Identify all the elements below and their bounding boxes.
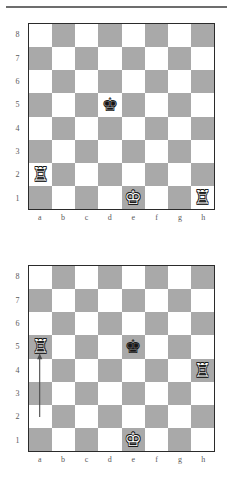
square-a5[interactable]: ♖ [29, 335, 52, 358]
square-g2[interactable] [168, 405, 191, 428]
square-f8[interactable] [145, 24, 168, 47]
square-c7[interactable] [75, 289, 98, 312]
square-d7[interactable] [98, 47, 121, 70]
square-d5[interactable] [98, 335, 121, 358]
square-c2[interactable] [75, 405, 98, 428]
square-a6[interactable] [29, 70, 52, 93]
square-f1[interactable] [145, 186, 168, 209]
square-h1[interactable]: ♖ [191, 186, 214, 209]
square-c4[interactable] [75, 117, 98, 140]
square-f6[interactable] [145, 312, 168, 335]
square-c8[interactable] [75, 266, 98, 289]
square-a2[interactable] [29, 405, 52, 428]
square-h2[interactable] [191, 163, 214, 186]
square-c7[interactable] [75, 47, 98, 70]
square-a1[interactable] [29, 186, 52, 209]
square-g1[interactable] [168, 428, 191, 451]
square-e7[interactable] [122, 47, 145, 70]
square-g1[interactable] [168, 186, 191, 209]
square-e6[interactable] [122, 70, 145, 93]
square-d8[interactable] [98, 24, 121, 47]
chessboard-before[interactable]: ♚♖♔♖ [28, 23, 215, 210]
white-king-e1[interactable]: ♔ [122, 186, 145, 209]
square-b6[interactable] [52, 312, 75, 335]
square-e5[interactable]: ♚ [122, 335, 145, 358]
square-e4[interactable] [122, 117, 145, 140]
square-a3[interactable] [29, 382, 52, 405]
square-f5[interactable] [145, 93, 168, 116]
square-g5[interactable] [168, 335, 191, 358]
square-g7[interactable] [168, 47, 191, 70]
square-b8[interactable] [52, 266, 75, 289]
square-b1[interactable] [52, 428, 75, 451]
square-d4[interactable] [98, 117, 121, 140]
square-c5[interactable] [75, 93, 98, 116]
square-d3[interactable] [98, 382, 121, 405]
square-e2[interactable] [122, 163, 145, 186]
black-king-e5[interactable]: ♚ [122, 335, 145, 358]
square-h5[interactable] [191, 335, 214, 358]
square-f4[interactable] [145, 359, 168, 382]
square-a4[interactable] [29, 117, 52, 140]
square-g2[interactable] [168, 163, 191, 186]
square-d8[interactable] [98, 266, 121, 289]
square-b2[interactable] [52, 405, 75, 428]
square-b1[interactable] [52, 186, 75, 209]
square-e6[interactable] [122, 312, 145, 335]
square-d1[interactable] [98, 428, 121, 451]
square-c1[interactable] [75, 428, 98, 451]
square-e5[interactable] [122, 93, 145, 116]
square-h1[interactable] [191, 428, 214, 451]
square-a2[interactable]: ♖ [29, 163, 52, 186]
white-rook-h4[interactable]: ♖ [191, 359, 214, 382]
square-h6[interactable] [191, 312, 214, 335]
square-h3[interactable] [191, 140, 214, 163]
square-a8[interactable] [29, 266, 52, 289]
square-g6[interactable] [168, 312, 191, 335]
square-e1[interactable]: ♔ [122, 428, 145, 451]
square-b6[interactable] [52, 70, 75, 93]
square-c6[interactable] [75, 312, 98, 335]
square-c3[interactable] [75, 140, 98, 163]
square-b3[interactable] [52, 382, 75, 405]
square-d2[interactable] [98, 163, 121, 186]
square-f2[interactable] [145, 163, 168, 186]
square-b5[interactable] [52, 93, 75, 116]
square-c4[interactable] [75, 359, 98, 382]
square-e3[interactable] [122, 382, 145, 405]
square-h4[interactable] [191, 117, 214, 140]
square-f6[interactable] [145, 70, 168, 93]
square-c2[interactable] [75, 163, 98, 186]
square-g3[interactable] [168, 140, 191, 163]
square-g8[interactable] [168, 24, 191, 47]
square-e3[interactable] [122, 140, 145, 163]
square-h7[interactable] [191, 47, 214, 70]
square-d1[interactable] [98, 186, 121, 209]
square-g4[interactable] [168, 359, 191, 382]
square-f2[interactable] [145, 405, 168, 428]
square-e1[interactable]: ♔ [122, 186, 145, 209]
square-d4[interactable] [98, 359, 121, 382]
square-c6[interactable] [75, 70, 98, 93]
square-a4[interactable] [29, 359, 52, 382]
square-f7[interactable] [145, 289, 168, 312]
square-h6[interactable] [191, 70, 214, 93]
white-rook-h1[interactable]: ♖ [191, 186, 214, 209]
square-c3[interactable] [75, 382, 98, 405]
square-g6[interactable] [168, 70, 191, 93]
square-e2[interactable] [122, 405, 145, 428]
square-f3[interactable] [145, 140, 168, 163]
square-g3[interactable] [168, 382, 191, 405]
square-b8[interactable] [52, 24, 75, 47]
square-b7[interactable] [52, 47, 75, 70]
square-h8[interactable] [191, 24, 214, 47]
square-b3[interactable] [52, 140, 75, 163]
square-a8[interactable] [29, 24, 52, 47]
chessboard-after[interactable]: ♖♚♖♔ [28, 265, 215, 452]
square-f5[interactable] [145, 335, 168, 358]
black-king-d5[interactable]: ♚ [98, 93, 121, 116]
square-f3[interactable] [145, 382, 168, 405]
white-rook-a2[interactable]: ♖ [29, 163, 52, 186]
square-g7[interactable] [168, 289, 191, 312]
square-f7[interactable] [145, 47, 168, 70]
